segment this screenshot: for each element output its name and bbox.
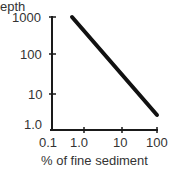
data-line	[72, 17, 157, 115]
plot-area	[0, 0, 175, 173]
